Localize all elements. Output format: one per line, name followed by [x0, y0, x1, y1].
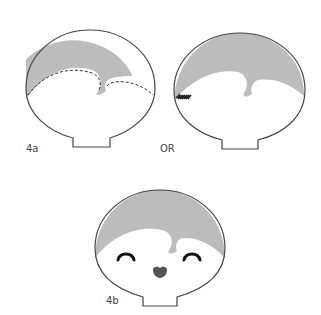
zigzag-stitch [176, 95, 191, 99]
left-eye-icon [118, 254, 134, 260]
or-label: OR [160, 143, 175, 154]
figure-4a: 4a [0, 0, 200, 154]
figure-label: 4b [106, 295, 119, 306]
nose-icon [153, 267, 167, 278]
figure-label: 4a [26, 143, 39, 154]
right-eye-icon [184, 254, 200, 260]
diagram-canvas: 4a OR 4b [0, 0, 321, 315]
figure-4a-alt: OR [160, 33, 305, 154]
hair-region [174, 33, 304, 100]
hair-region [95, 190, 225, 258]
figure-4b: 4b [95, 190, 225, 306]
